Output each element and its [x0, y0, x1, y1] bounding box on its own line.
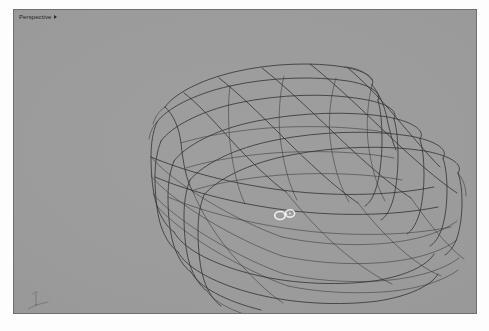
- viewport-label[interactable]: Perspective: [17, 12, 59, 22]
- axis-tripod-icon: [24, 286, 58, 312]
- caret-right-icon[interactable]: [54, 15, 57, 19]
- viewport-label-text: Perspective: [19, 12, 51, 22]
- move-rotate-gizmo[interactable]: [272, 207, 298, 222]
- application-window: Perspective: [0, 0, 489, 331]
- perspective-viewport[interactable]: Perspective: [13, 9, 477, 314]
- wireframe-mesh: [14, 10, 476, 313]
